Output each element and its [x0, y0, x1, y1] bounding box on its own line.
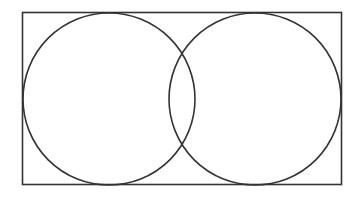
venn-diagram-canvas	[0, 0, 362, 199]
universe-rectangle	[23, 13, 342, 185]
venn-diagram	[0, 0, 362, 199]
